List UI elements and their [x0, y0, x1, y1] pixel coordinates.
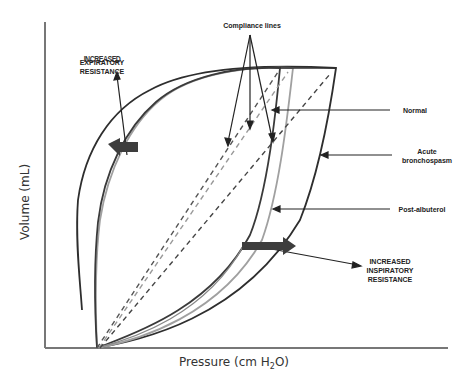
label-inspiratory-line1: INCREASED: [360, 257, 420, 266]
label-acute-line2: bronchospasm: [392, 156, 462, 165]
label-increased-inspiratory-resistance: INCREASED INSPIRATORY RESISTANCE: [360, 257, 420, 284]
label-expiratory-resistance: INCREASED EXPIRATORY RESISTANCE: [72, 58, 132, 76]
label-normal: Normal: [395, 106, 435, 115]
label-inspiratory-line2: INSPIRATORY: [360, 266, 420, 275]
compliance-line-normal: [97, 72, 278, 348]
label-inspiratory-line3: RESISTANCE: [360, 275, 420, 284]
label-acute-bronchospasm: Acute bronchospasm: [392, 147, 462, 165]
label-post-albuterol: Post-albuterol: [392, 205, 452, 214]
label-acute-line1: Acute: [392, 147, 462, 156]
x-axis-label: Pressure (cm H2O): [0, 355, 468, 371]
label-expiratory-garbled: INCREASED: [72, 53, 132, 65]
expiratory-arrow-icon: [108, 138, 138, 156]
label-expiratory-line2: RESISTANCE: [72, 67, 132, 76]
post-albuterol-loop: [96, 68, 293, 348]
x-axis-label-end: O): [275, 355, 289, 369]
compliance-arrows: [225, 35, 275, 146]
pv-loop-diagram: [0, 0, 468, 385]
acute-bronchospasm-loop: [77, 67, 336, 348]
x-axis-label-main: Pressure (cm H: [179, 355, 270, 369]
normal-loop-shadow: [97, 245, 244, 348]
label-compliance-lines: Compliance lines: [212, 21, 292, 30]
compliance-line-post: [99, 72, 288, 348]
y-axis-label: Volume (mL): [18, 157, 32, 247]
